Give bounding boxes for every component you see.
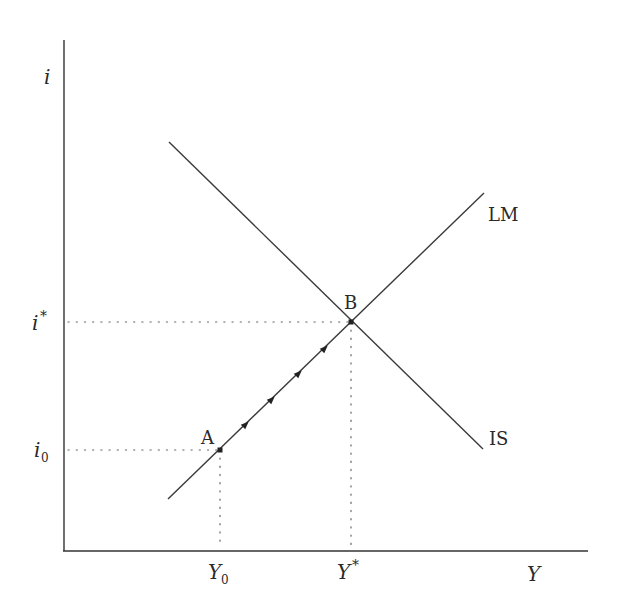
lm-curve bbox=[168, 193, 484, 499]
arrow-icon bbox=[320, 343, 330, 353]
is-curve bbox=[169, 142, 483, 449]
y-axis-label: i bbox=[44, 65, 50, 89]
lm-label: LM bbox=[488, 204, 518, 225]
svg-text:*: * bbox=[40, 308, 47, 324]
i-star-label: i * bbox=[32, 308, 47, 335]
point-a-marker bbox=[218, 448, 223, 453]
point-b-label: B bbox=[344, 292, 357, 313]
point-a-label: A bbox=[200, 427, 215, 448]
svg-text:0: 0 bbox=[41, 451, 49, 465]
svg-text:Y: Y bbox=[337, 560, 352, 584]
x-axis-label: Y bbox=[527, 562, 542, 586]
svg-text:0: 0 bbox=[221, 573, 229, 587]
svg-text:i: i bbox=[32, 311, 38, 335]
is-lm-diagram: i Y LM IS A B i * i 0 Y 0 Y * bbox=[0, 0, 618, 608]
svg-text:*: * bbox=[352, 557, 359, 573]
i-zero-label: i 0 bbox=[34, 438, 49, 465]
y-zero-label: Y 0 bbox=[208, 560, 229, 587]
svg-text:i: i bbox=[34, 438, 40, 462]
y-star-label: Y * bbox=[337, 557, 359, 584]
point-b-marker bbox=[349, 320, 354, 325]
is-label: IS bbox=[489, 428, 508, 449]
